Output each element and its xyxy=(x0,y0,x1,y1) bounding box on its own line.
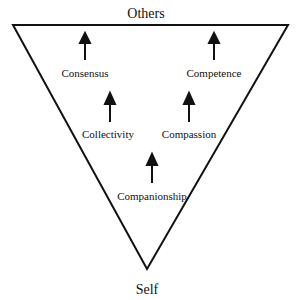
inverted-triangle xyxy=(13,25,288,269)
consensus-label: Consensus xyxy=(61,67,108,79)
competence-label: Competence xyxy=(187,67,242,79)
companionship-label: Companionship xyxy=(117,190,187,202)
self-label: Self xyxy=(136,282,159,298)
compassion-label: Compassion xyxy=(162,128,216,140)
others-label: Others xyxy=(127,6,164,22)
collectivity-label: Collectivity xyxy=(82,128,134,140)
diagram-canvas xyxy=(0,0,298,300)
arrows xyxy=(80,33,219,183)
